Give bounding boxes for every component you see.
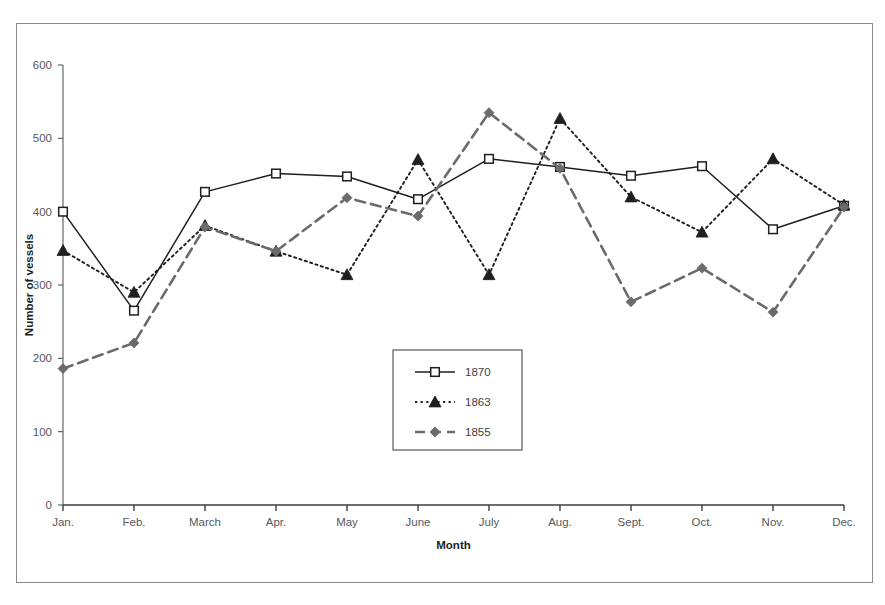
data-point-1863-Jan. (57, 245, 69, 256)
data-point-1863-Sept. (625, 191, 637, 202)
legend-marker-1870 (431, 368, 440, 377)
data-point-1870-June (414, 195, 423, 204)
x-axis-tick-label: Aug. (548, 516, 572, 528)
x-axis-tick-label: July (479, 516, 500, 528)
x-axis-tick-label: Sept. (618, 516, 645, 528)
data-point-1870-Oct. (698, 162, 707, 171)
series-1870 (59, 155, 849, 315)
x-axis-tick-label: Jan. (52, 516, 74, 528)
legend-label-1863: 1863 (465, 396, 491, 408)
data-point-1870-Sept. (627, 171, 636, 180)
x-axis-tick-label: Dec. (832, 516, 856, 528)
y-axis-tick-label: 500 (33, 132, 52, 144)
x-axis-tick-label: Nov. (762, 516, 785, 528)
series-layer (57, 108, 850, 374)
x-axis-tick-label: March (189, 516, 221, 528)
series-1863 (57, 113, 850, 298)
y-axis-tick-label: 100 (33, 426, 52, 438)
x-axis-tick-label: Feb. (122, 516, 145, 528)
y-axis-tick-label: 300 (33, 279, 52, 291)
y-axis-tick-label: 200 (33, 352, 52, 364)
y-axis-tick-label: 400 (33, 206, 52, 218)
legend-label-1870: 1870 (465, 366, 491, 378)
x-axis-tick-label: Apr. (266, 516, 286, 528)
data-point-1855-Sept. (626, 297, 636, 307)
line-chart-plot: 0100200300400500600Jan.Feb.MarchApr.MayJ… (0, 0, 885, 605)
x-axis-tick-label: June (406, 516, 431, 528)
data-point-1863-July (483, 269, 495, 280)
data-point-1863-June (412, 154, 424, 165)
chart-figure: 0100200300400500600Jan.Feb.MarchApr.MayJ… (0, 0, 885, 605)
data-point-1870-Jan. (59, 207, 68, 216)
x-axis-tick-label: May (336, 516, 358, 528)
data-point-1870-Feb. (130, 306, 139, 315)
legend-box (393, 350, 522, 450)
data-point-1870-March (201, 188, 210, 197)
x-axis-tick-label: Oct. (691, 516, 712, 528)
axis-layer: 0100200300400500600Jan.Feb.MarchApr.MayJ… (33, 59, 856, 528)
data-point-1855-Jan. (58, 364, 68, 374)
y-axis-tick-label: 0 (46, 499, 52, 511)
data-point-1870-Apr. (272, 169, 281, 178)
x-axis-title: Month (436, 539, 470, 551)
y-axis-title: Number of vessels (23, 234, 35, 336)
data-point-1870-Nov. (769, 225, 778, 234)
data-point-1870-July (485, 155, 494, 164)
data-point-1863-Aug. (554, 113, 566, 124)
legend-layer: 187018631855 (393, 350, 522, 450)
data-point-1870-May (343, 172, 352, 181)
legend-label-1855: 1855 (465, 426, 491, 438)
series-line-1855 (63, 113, 844, 369)
data-point-1863-Feb. (128, 286, 140, 297)
y-axis-tick-label: 600 (33, 59, 52, 71)
data-point-1863-Nov. (767, 153, 779, 164)
series-line-1870 (63, 159, 844, 311)
